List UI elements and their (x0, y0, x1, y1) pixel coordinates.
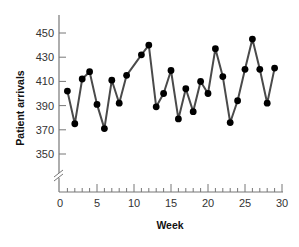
data-point (86, 68, 93, 75)
data-point (71, 120, 78, 127)
data-point (123, 72, 130, 79)
x-tick-label: 0 (57, 197, 63, 209)
x-tick-label: 20 (202, 197, 214, 209)
data-point (212, 45, 219, 52)
data-point (168, 67, 175, 74)
x-tick-label: 30 (276, 197, 288, 209)
data-point (227, 119, 234, 126)
axes (54, 15, 283, 192)
data-point (94, 101, 101, 108)
data-point (234, 97, 241, 104)
data-point (145, 42, 152, 49)
x-tick-label: 10 (128, 197, 140, 209)
y-tick-label: 350 (36, 148, 54, 160)
series-line (67, 39, 274, 129)
x-tick-label: 15 (165, 197, 177, 209)
x-tick-label: 5 (94, 197, 100, 209)
data-point (205, 90, 212, 97)
x-axis-title: Week (156, 219, 183, 231)
data-point (249, 36, 256, 43)
line-chart: 350370390410430450 051015202530 Week Pat… (0, 0, 299, 247)
data-point (138, 51, 145, 58)
x-ticks: 051015202530 (57, 184, 288, 209)
y-tick-label: 370 (36, 124, 54, 136)
x-tick-label: 25 (239, 197, 251, 209)
data-point (264, 100, 271, 107)
data-point (271, 65, 278, 72)
data-point (160, 90, 167, 97)
y-tick-label: 410 (36, 75, 54, 87)
data-point (219, 73, 226, 80)
data-point (256, 66, 263, 73)
data-point (64, 88, 71, 95)
series (64, 36, 278, 132)
data-point (153, 103, 160, 110)
data-point (116, 100, 123, 107)
data-point (101, 125, 108, 132)
y-ticks: 350370390410430450 (36, 27, 66, 160)
data-point (79, 76, 86, 83)
data-point (190, 108, 197, 115)
data-point (182, 85, 189, 92)
data-point (197, 78, 204, 85)
data-point (108, 77, 115, 84)
data-point (175, 116, 182, 123)
y-tick-label: 450 (36, 27, 54, 39)
y-tick-label: 390 (36, 100, 54, 112)
y-tick-label: 430 (36, 51, 54, 63)
y-axis-title: Patient arrivals (14, 70, 26, 145)
data-point (242, 66, 249, 73)
